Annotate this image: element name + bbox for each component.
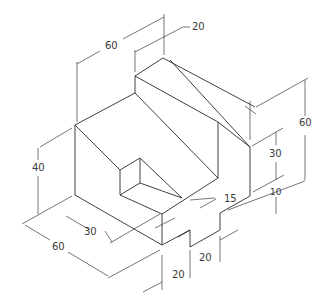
dim-label-chamfer: 15 [224, 194, 237, 204]
dim-label-notch-width: 20 [199, 253, 212, 263]
dim-label-overall-height: 60 [299, 118, 312, 128]
dim-label-top-width: 60 [105, 41, 118, 51]
dim-label-slot-length: 30 [84, 227, 97, 237]
dim-label-notch-depth: 20 [172, 270, 185, 280]
dim-label-step-height: 30 [269, 149, 282, 159]
dim-label-depth: 60 [52, 242, 65, 252]
dim-label-left-height: 40 [32, 163, 45, 173]
dim-label-ridge-width: 20 [192, 22, 205, 32]
dim-label-base-height: 10 [270, 187, 281, 197]
dimension-lines [22, 14, 308, 292]
object-lines [75, 58, 255, 247]
